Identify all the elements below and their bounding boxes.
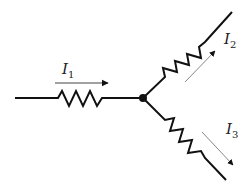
branch-1-resistor	[15, 91, 143, 106]
label-i2-sub: 2	[230, 39, 236, 50]
branch-3-resistor	[143, 98, 226, 180]
label-i3: I3	[226, 120, 238, 140]
junction-node	[139, 94, 147, 102]
circuit-svg	[0, 0, 252, 194]
label-i2: I2	[224, 30, 236, 50]
label-i1: I1	[62, 60, 74, 80]
branch-2-resistor	[143, 12, 232, 98]
label-i3-sub: 3	[232, 129, 238, 140]
circuit-diagram: I1 I2 I3	[0, 0, 252, 194]
label-i1-sub: 1	[68, 69, 74, 80]
